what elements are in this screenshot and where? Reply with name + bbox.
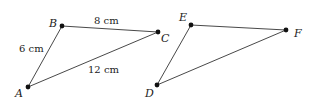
measure-bc: 8 cm — [94, 15, 119, 26]
point-a — [26, 85, 31, 90]
triangle-def: D E F — [144, 11, 302, 100]
label-f: F — [293, 27, 302, 40]
label-e: E — [178, 11, 187, 24]
point-d — [155, 83, 160, 88]
label-d: D — [144, 87, 154, 100]
side-bc — [62, 26, 158, 32]
side-ac — [28, 32, 158, 87]
label-a: A — [14, 87, 23, 100]
side-df — [157, 30, 286, 85]
label-c: C — [161, 32, 170, 45]
measure-ac: 12 cm — [88, 64, 120, 75]
triangle-diagram: A B C 8 cm 6 cm 12 cm D E F — [0, 0, 316, 107]
side-ef — [191, 25, 286, 30]
point-e — [189, 23, 194, 28]
point-b — [60, 24, 65, 29]
point-c — [156, 30, 161, 35]
point-f — [284, 28, 289, 33]
label-b: B — [48, 17, 57, 30]
measure-ab: 6 cm — [19, 43, 44, 54]
side-ab — [28, 26, 62, 87]
